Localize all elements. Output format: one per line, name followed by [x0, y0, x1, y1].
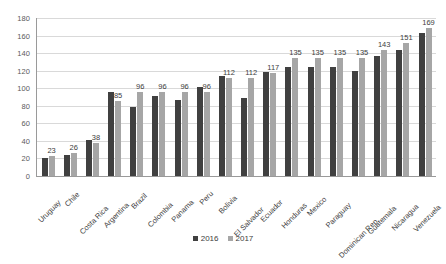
- bar-2017: 96: [137, 92, 143, 176]
- x-axis-tick-labels: UruguayChileCosta RicaArgentinaBrazilCol…: [37, 176, 437, 236]
- legend-swatch-icon: [193, 236, 198, 241]
- bar-value-label: 96: [136, 82, 144, 91]
- bar-group: 169: [414, 18, 436, 176]
- chart-legend: 20162017: [0, 234, 446, 243]
- bar-group: 143: [370, 18, 392, 176]
- bar-value-label: 96: [203, 82, 211, 91]
- bar-2016: [86, 140, 92, 176]
- x-tick-label: Honduras: [279, 201, 308, 230]
- bar-2016: [352, 71, 358, 176]
- bar-chart: 180160140120100806040200 232638859696969…: [0, 0, 446, 264]
- bar-2017: 135: [292, 58, 298, 177]
- bar-value-label: 135: [334, 48, 347, 57]
- bar-group: 135: [281, 18, 303, 176]
- bar-group: 85: [104, 18, 126, 176]
- y-tick-label: 100: [17, 84, 30, 93]
- x-tick-label: Peru: [197, 189, 215, 207]
- legend-item-2017[interactable]: 2017: [228, 234, 254, 243]
- bar-value-label: 112: [245, 68, 257, 77]
- bar-2017: 143: [381, 50, 387, 176]
- bar-group: 151: [392, 18, 414, 176]
- bar-value-label: 23: [47, 146, 55, 155]
- bar-2016: [152, 96, 158, 176]
- bar-2017: 169: [426, 28, 432, 176]
- bar-group: 135: [347, 18, 369, 176]
- bar-value-label: 112: [223, 68, 235, 77]
- x-tick-label: Uruguay: [36, 198, 62, 224]
- bar-2017: 96: [159, 92, 165, 176]
- bar-2016: [330, 67, 336, 176]
- bar-group: 96: [170, 18, 192, 176]
- y-tick-label: 180: [17, 14, 30, 23]
- bar-2017: 135: [359, 58, 365, 177]
- y-tick-label: 0: [26, 172, 30, 181]
- bar-2017: 85: [115, 101, 121, 176]
- bar-group: 96: [148, 18, 170, 176]
- y-axis-tick-labels: 180160140120100806040200: [0, 18, 34, 176]
- bar-value-label: 117: [267, 63, 279, 72]
- bar-group: 38: [81, 18, 103, 176]
- bar-value-label: 135: [289, 48, 302, 57]
- bar-value-label: 96: [158, 82, 166, 91]
- bar-2017: 112: [226, 78, 232, 176]
- bar-2017: 135: [315, 58, 321, 177]
- bar-2017: 26: [71, 153, 77, 176]
- legend-swatch-icon: [228, 236, 233, 241]
- bar-2016: [197, 87, 203, 176]
- bar-group: 135: [303, 18, 325, 176]
- bar-group: 96: [126, 18, 148, 176]
- bar-group: 26: [59, 18, 81, 176]
- bar-value-label: 96: [180, 82, 188, 91]
- bar-group: 23: [37, 18, 59, 176]
- bar-group: 112: [237, 18, 259, 176]
- bar-2017: 112: [248, 78, 254, 176]
- bar-2016: [419, 33, 425, 176]
- bar-2017: 38: [93, 143, 99, 176]
- bar-2016: [285, 67, 291, 176]
- bar-value-label: 151: [400, 33, 413, 42]
- bar-value-label: 135: [356, 48, 369, 57]
- bar-2016: [219, 76, 225, 176]
- y-tick-label: 140: [17, 49, 30, 58]
- bar-group: 117: [259, 18, 281, 176]
- bar-2016: [374, 56, 380, 176]
- bar-groups: 2326388596969696112112117135135135135143…: [37, 18, 436, 176]
- bar-value-label: 135: [311, 48, 324, 57]
- x-tick-label: Bolivia: [217, 194, 239, 216]
- legend-item-2016[interactable]: 2016: [193, 234, 219, 243]
- bar-2016: [108, 92, 114, 176]
- bar-value-label: 38: [92, 133, 100, 142]
- bar-2017: 23: [49, 156, 55, 176]
- bar-2016: [64, 155, 70, 176]
- bar-2016: [308, 67, 314, 176]
- y-tick-label: 20: [21, 154, 30, 163]
- bar-2016: [396, 50, 402, 176]
- x-tick-label: Brazil: [129, 191, 149, 211]
- legend-label: 2016: [201, 234, 219, 243]
- bar-2017: 135: [337, 58, 343, 177]
- bar-2017: 96: [182, 92, 188, 176]
- bar-value-label: 85: [114, 91, 122, 100]
- y-tick-label: 120: [17, 66, 30, 75]
- bar-2016: [175, 100, 181, 176]
- x-tick-label: Paraguay: [324, 201, 353, 230]
- bar-2017: 117: [270, 73, 276, 176]
- bar-group: 96: [192, 18, 214, 176]
- bar-group: 112: [214, 18, 236, 176]
- y-tick-label: 80: [21, 101, 30, 110]
- x-tick-label: Chile: [63, 190, 81, 208]
- bar-value-label: 26: [70, 143, 78, 152]
- x-tick-label: Panama: [170, 198, 196, 224]
- bar-2016: [42, 158, 48, 176]
- bar-value-label: 143: [378, 40, 391, 49]
- y-tick-label: 40: [21, 136, 30, 145]
- bar-value-label: 169: [422, 18, 435, 27]
- bar-group: 135: [325, 18, 347, 176]
- bar-2016: [241, 98, 247, 176]
- bar-2017: 96: [204, 92, 210, 176]
- plot-area: 2326388596969696112112117135135135135143…: [36, 18, 436, 176]
- y-tick-label: 60: [21, 119, 30, 128]
- bar-2016: [263, 72, 269, 176]
- bar-2017: 151: [403, 43, 409, 176]
- legend-label: 2017: [236, 234, 254, 243]
